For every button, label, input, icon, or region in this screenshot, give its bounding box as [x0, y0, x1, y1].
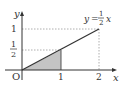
y-tick-half-den: 2 — [11, 50, 16, 59]
func-x: x — [106, 14, 111, 24]
y-tick-half-num: 1 — [11, 40, 16, 49]
graph-figure: y x O 1 2 1 1 2 y = 1 2 x — [0, 0, 126, 96]
origin-label: O — [12, 71, 20, 82]
y-arrow-icon — [20, 11, 24, 16]
func-eq: = — [91, 14, 99, 24]
x-tick-1: 1 — [58, 72, 64, 82]
x-axis-label: x — [113, 72, 119, 83]
y-tick-1: 1 — [11, 24, 17, 34]
func-den: 2 — [99, 19, 103, 27]
func-y: y — [83, 14, 90, 24]
y-axis-label: y — [13, 8, 20, 19]
func-num: 1 — [99, 10, 103, 18]
x-tick-2: 2 — [96, 72, 102, 82]
